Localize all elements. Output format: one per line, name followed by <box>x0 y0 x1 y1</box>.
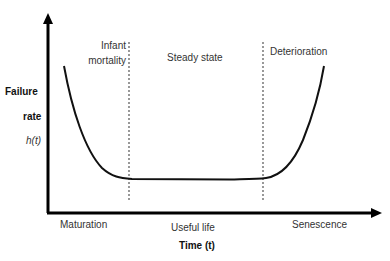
y-label-rate: rate <box>23 111 41 123</box>
hazard-curve <box>64 66 324 180</box>
x-axis-arrow-icon <box>371 208 382 218</box>
region-infant-line1: Infant <box>86 40 126 52</box>
region-steady-state: Steady state <box>167 52 223 64</box>
x-axis-label: Time (t) <box>179 240 215 252</box>
region-infant-line2: mortality <box>76 55 126 67</box>
phase-maturation: Maturation <box>60 219 107 231</box>
phase-useful-life: Useful life <box>171 222 215 234</box>
y-label-symbol: h(t) <box>26 135 41 147</box>
phase-senescence: Senescence <box>292 219 347 231</box>
region-deterioration: Deterioration <box>270 46 327 58</box>
y-label-failure: Failure <box>5 86 38 98</box>
y-axis-arrow-icon <box>43 13 53 24</box>
